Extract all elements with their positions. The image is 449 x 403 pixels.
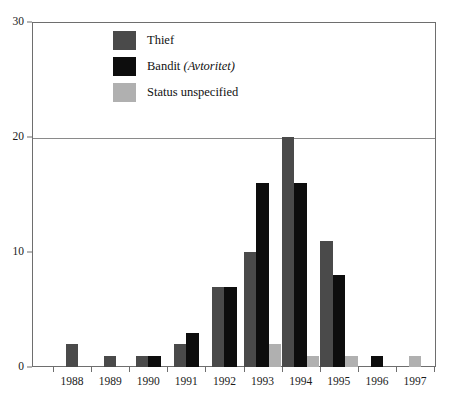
bar-1995-bandit-avtoritet	[333, 275, 346, 367]
legend-label-0: Thief	[147, 33, 174, 48]
y-axis: 0102030	[0, 0, 32, 403]
y-tick-label-30: 30	[13, 16, 25, 28]
bar-1994-status-unspecified	[307, 356, 320, 368]
x-tick-label-1989: 1989	[99, 376, 122, 388]
legend-swatch-1	[113, 57, 136, 76]
legend-item-0: Thief	[113, 31, 238, 50]
bar-1992-bandit-avtoritet	[224, 287, 237, 368]
y-tick-label-0: 0	[18, 361, 24, 373]
bar-1994-bandit-avtoritet	[294, 183, 307, 367]
legend-item-2: Status unspecified	[113, 83, 238, 102]
bar-chart: 0102030 19881989199019911992199319941995…	[0, 0, 449, 403]
legend-swatch-2	[113, 83, 136, 102]
bar-1995-status-unspecified	[345, 356, 358, 368]
legend-swatch-0	[113, 31, 136, 50]
bar-1993-bandit-avtoritet	[256, 183, 269, 367]
bar-1990-thief	[136, 356, 149, 368]
x-tick-label-1988: 1988	[61, 376, 84, 388]
bar-1990-bandit-avtoritet	[148, 356, 161, 368]
bar-1988-thief	[66, 344, 79, 367]
x-tick-label-1992: 1992	[213, 376, 236, 388]
bar-1993-status-unspecified	[269, 344, 282, 367]
bar-1992-thief	[212, 287, 225, 368]
x-tick-label-1990: 1990	[137, 376, 160, 388]
legend-item-1: Bandit (Avtoritet)	[113, 57, 238, 76]
bar-1995-thief	[320, 241, 333, 368]
x-tick-label-1996: 1996	[365, 376, 388, 388]
chart-legend: ThiefBandit (Avtoritet)Status unspecifie…	[113, 31, 238, 109]
legend-label-2: Status unspecified	[147, 85, 238, 100]
x-tick-label-1997: 1997	[404, 376, 427, 388]
legend-label-1: Bandit (Avtoritet)	[147, 59, 235, 74]
x-tick-label-1995: 1995	[327, 376, 350, 388]
x-tick-label-1991: 1991	[175, 376, 198, 388]
bar-1991-thief	[174, 344, 187, 367]
x-tick-label-1994: 1994	[289, 376, 312, 388]
bar-1991-bandit-avtoritet	[186, 333, 199, 368]
x-tick-label-1993: 1993	[251, 376, 274, 388]
legend-label-italic-1: (Avtoritet)	[183, 59, 234, 73]
bar-1996-bandit-avtoritet	[371, 356, 384, 368]
bar-1997-status-unspecified	[409, 356, 422, 368]
bar-1993-thief	[244, 252, 257, 367]
x-axis: 1988198919901991199219931994199519961997	[32, 370, 436, 394]
y-tick-label-20: 20	[13, 131, 25, 143]
bar-1994-thief	[282, 137, 295, 367]
bar-1989-thief	[104, 356, 117, 368]
y-tick-label-10: 10	[13, 246, 25, 258]
